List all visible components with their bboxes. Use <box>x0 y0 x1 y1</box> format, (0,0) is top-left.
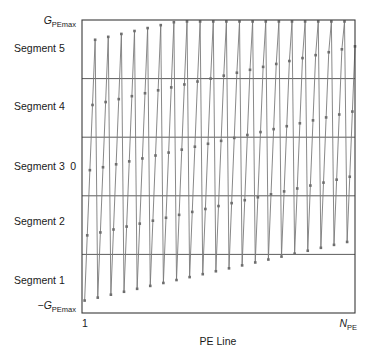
data-point-marker <box>144 92 147 95</box>
data-point-marker <box>312 119 315 122</box>
data-point-marker <box>149 285 152 288</box>
data-point-marker <box>165 216 168 219</box>
data-point-marker <box>115 163 118 166</box>
data-point-marker <box>188 276 191 279</box>
data-point-marker <box>104 101 107 104</box>
data-point-marker <box>86 234 89 237</box>
data-point-marker <box>138 222 141 225</box>
data-point-marker <box>280 255 283 258</box>
data-point-marker <box>215 270 218 273</box>
data-point-marker <box>246 134 249 137</box>
y-axis-min-symbol: G <box>44 299 52 311</box>
data-point-marker <box>301 57 304 60</box>
data-point-marker <box>136 288 139 291</box>
data-point-marker <box>306 249 309 252</box>
data-point-marker <box>102 166 105 169</box>
data-point-marker <box>131 95 134 98</box>
data-point-marker <box>275 63 278 66</box>
data-point-marker <box>283 190 286 193</box>
data-point-marker <box>346 241 349 244</box>
data-point-marker <box>194 145 197 148</box>
data-point-marker <box>167 151 170 154</box>
data-point-marker <box>175 279 178 282</box>
data-point-marker <box>348 175 351 178</box>
data-point-marker <box>267 258 270 261</box>
data-point-marker <box>335 178 338 181</box>
data-point-marker <box>254 261 257 264</box>
segment-label-4: Segment 4 <box>14 100 65 112</box>
data-point-marker <box>236 71 239 74</box>
data-point-marker <box>159 24 162 27</box>
data-point-marker <box>351 110 354 113</box>
x-axis-start-label: 1 <box>82 317 88 329</box>
data-point-marker <box>249 69 252 72</box>
data-point-marker <box>196 80 199 83</box>
data-point-marker <box>314 54 317 57</box>
data-point-marker <box>241 264 244 267</box>
data-point-marker <box>222 74 225 77</box>
data-point-marker <box>125 225 128 228</box>
y-axis-max-symbol: G <box>44 14 52 26</box>
data-point-marker <box>327 51 330 54</box>
data-point-marker <box>128 160 131 163</box>
data-point-marker <box>299 122 302 125</box>
segment-label-5: Segment 5 <box>14 42 65 54</box>
data-point-marker <box>107 36 110 39</box>
data-point-marker <box>133 30 136 33</box>
data-point-marker <box>91 104 94 107</box>
data-point-marker <box>94 38 97 41</box>
data-point-marker <box>123 290 126 293</box>
data-point-marker <box>322 181 325 184</box>
data-point-marker <box>112 228 115 231</box>
segment-label-2: Segment 2 <box>14 215 65 227</box>
segment-label-3: Segment 3 <box>14 160 65 172</box>
phase-encode-ordering-figure: GPEmax −GPEmax 0 Segment 1 Segment 2 Seg… <box>0 0 373 353</box>
data-point-marker <box>162 282 165 285</box>
data-point-marker <box>209 77 212 80</box>
data-point-marker <box>296 187 299 190</box>
data-point-marker <box>285 125 288 128</box>
data-point-marker <box>89 169 92 172</box>
data-point-marker <box>262 66 265 69</box>
data-point-marker <box>180 148 183 151</box>
data-point-marker <box>228 267 231 270</box>
data-point-marker <box>320 247 323 250</box>
data-point-marker <box>217 205 220 208</box>
data-point-marker <box>152 219 155 222</box>
data-point-marker <box>341 48 344 51</box>
y-axis-min-subscript: PEmax <box>52 305 76 314</box>
data-point-marker <box>233 137 236 140</box>
data-point-marker <box>201 273 204 276</box>
x-axis-end-subscript: PE <box>347 323 357 332</box>
data-point-marker <box>96 296 99 299</box>
data-point-marker <box>207 142 210 145</box>
data-point-marker <box>99 231 102 234</box>
chart-canvas: GPEmax −GPEmax 0 Segment 1 Segment 2 Seg… <box>0 0 373 353</box>
data-point-marker <box>259 131 262 134</box>
data-point-marker <box>110 293 113 296</box>
data-point-marker <box>220 140 223 143</box>
data-point-marker <box>204 208 207 211</box>
data-point-marker <box>141 157 144 160</box>
data-point-marker <box>288 60 291 63</box>
data-point-marker <box>293 252 296 255</box>
data-point-marker <box>146 27 149 30</box>
segment-label-1: Segment 1 <box>14 274 65 286</box>
data-point-marker <box>272 128 275 131</box>
data-point-marker <box>178 214 181 217</box>
data-point-marker <box>270 193 273 196</box>
data-point-marker <box>183 83 186 86</box>
data-point-marker <box>170 86 173 89</box>
data-point-marker <box>191 211 194 214</box>
data-point-marker <box>173 21 176 24</box>
data-point-marker <box>257 196 260 199</box>
data-point-marker <box>309 184 312 187</box>
data-point-marker <box>157 89 160 92</box>
data-point-marker <box>325 116 328 119</box>
data-point-marker <box>120 33 123 36</box>
data-point-marker <box>117 98 120 101</box>
y-axis-max-subscript: PEmax <box>52 20 76 29</box>
y-axis-zero-label: 0 <box>70 160 76 172</box>
x-axis-title: PE Line <box>200 335 237 347</box>
data-point-marker <box>154 154 157 157</box>
